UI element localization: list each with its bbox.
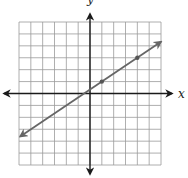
x-axis-label: x	[178, 87, 185, 101]
y-axis-label: y	[86, 0, 94, 6]
coordinate-plane: x y	[0, 0, 188, 178]
data-point	[135, 56, 139, 60]
axes	[4, 14, 172, 174]
data-point	[100, 79, 104, 83]
